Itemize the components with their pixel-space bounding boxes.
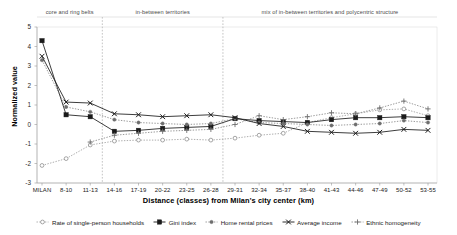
y-tick-label-3: 2 (19, 82, 31, 89)
chart-legend: Rate of single-person householdsGini ind… (0, 218, 457, 226)
legend-label-2: Home rental prices (221, 219, 273, 226)
legend-marker-4 (351, 218, 364, 226)
band-label-2: mix of in-between territories and polyce… (223, 9, 437, 15)
y-tick-label-4: 1 (19, 101, 31, 108)
series-2 (40, 58, 429, 127)
y-tick-label-1: 4 (19, 43, 31, 50)
legend-marker-0 (36, 218, 49, 226)
y-tick-label-7: -2 (19, 160, 31, 167)
legend-item-0: Rate of single-person households (36, 218, 144, 226)
y-tick-label-2: 3 (19, 62, 31, 69)
legend-item-1: Gini index (153, 218, 196, 226)
y-tick-label-8: -3 (19, 179, 31, 186)
chart-container: Normalized value Distance (classes) from… (0, 0, 457, 235)
legend-item-2: Home rental prices (205, 218, 272, 226)
x-axis-title: Distance (classes) from Milan's city cen… (0, 196, 457, 205)
y-tick-label-5: 0 (19, 121, 31, 128)
x-tick-label-16: 53-55 (412, 187, 444, 193)
legend-item-4: Ethnic homogeneity (351, 218, 421, 226)
y-axis-title: Normalized value (10, 62, 19, 132)
y-tick-label-0: 5 (19, 23, 31, 30)
legend-marker-2 (205, 218, 218, 226)
legend-item-3: Average income (282, 218, 342, 226)
legend-label-3: Average income (297, 219, 342, 226)
legend-label-0: Rate of single-person households (52, 219, 144, 226)
legend-label-4: Ethnic homogeneity (366, 219, 420, 226)
series-0 (40, 107, 430, 167)
y-tick-label-6: -1 (19, 140, 31, 147)
legend-label-1: Gini index (169, 219, 197, 226)
legend-marker-1 (153, 218, 166, 226)
legend-marker-3 (282, 218, 295, 226)
band-label-0: core and ring belts (37, 9, 102, 15)
band-label-1: in-between territories (102, 9, 223, 15)
